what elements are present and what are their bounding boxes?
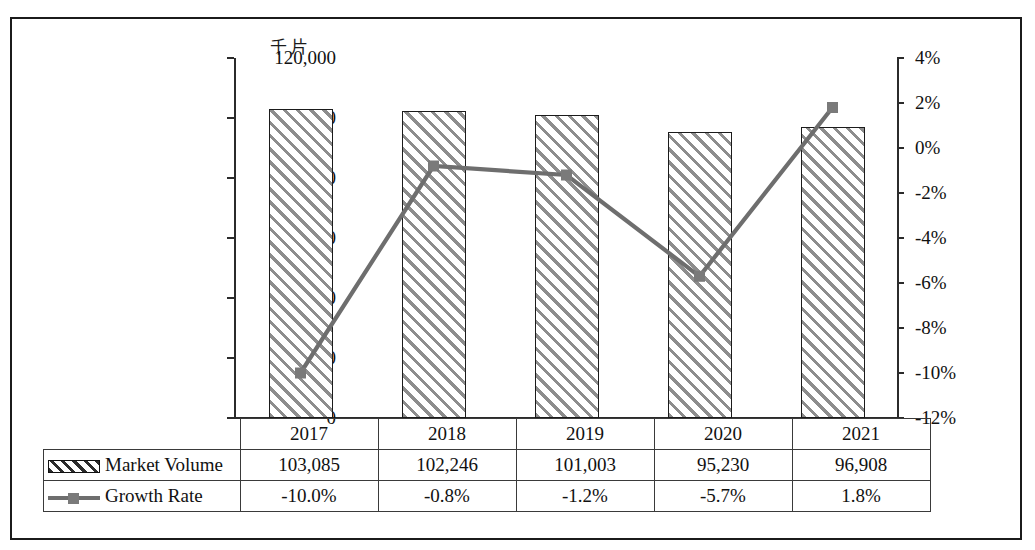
table-cell-2019: -1.2% bbox=[516, 481, 654, 512]
table-cell-2017: 103,085 bbox=[240, 450, 378, 481]
table-row: Market Volume103,085102,246101,00395,230… bbox=[44, 450, 931, 481]
left-axis-tick bbox=[227, 177, 234, 179]
left-axis-tick bbox=[227, 237, 234, 239]
growth-rate-marker-2017 bbox=[295, 368, 306, 379]
right-axis-tick-label: -8% bbox=[915, 318, 947, 337]
table-series-label-growth-rate: Growth Rate bbox=[44, 481, 241, 512]
table-corner-cell bbox=[44, 419, 241, 450]
left-axis-tick bbox=[227, 297, 234, 299]
table-series-label-market-volume: Market Volume bbox=[44, 450, 241, 481]
plot-area: 020,00040,00060,00080,000100,000120,000 … bbox=[234, 58, 899, 418]
line-series-layer bbox=[234, 58, 899, 418]
growth-rate-marker-2020 bbox=[694, 271, 705, 282]
right-axis-tick-labels: -12%-10%-8%-6%-4%-2%0%2%4% bbox=[915, 58, 1035, 418]
right-axis-tick-label: -2% bbox=[915, 183, 947, 202]
table-body: Market Volume103,085102,246101,00395,230… bbox=[44, 450, 931, 512]
right-axis-tick bbox=[897, 102, 904, 104]
table-cell-2020: 95,230 bbox=[654, 450, 792, 481]
table-header-year-2017: 2017 bbox=[240, 419, 378, 450]
left-axis-tick bbox=[227, 57, 234, 59]
legend-bar-swatch-icon bbox=[48, 460, 100, 473]
table-header-year-2021: 2021 bbox=[792, 419, 930, 450]
right-axis-tick bbox=[897, 147, 904, 149]
right-axis-tick-label: -10% bbox=[915, 363, 956, 382]
left-axis-tick bbox=[227, 117, 234, 119]
table-header-year-2018: 2018 bbox=[378, 419, 516, 450]
right-axis-tick bbox=[897, 57, 904, 59]
table-header-year-2019: 2019 bbox=[516, 419, 654, 450]
table-header-year-2020: 2020 bbox=[654, 419, 792, 450]
growth-rate-marker-2019 bbox=[561, 170, 572, 181]
table-cell-2018: -0.8% bbox=[378, 481, 516, 512]
right-axis-tick-label: -6% bbox=[915, 273, 947, 292]
legend-line-swatch-icon bbox=[48, 491, 100, 504]
growth-rate-line bbox=[301, 108, 833, 374]
right-axis-tick bbox=[897, 372, 904, 374]
table-cell-2019: 101,003 bbox=[516, 450, 654, 481]
growth-rate-marker-2018 bbox=[428, 161, 439, 172]
table-row: Growth Rate-10.0%-0.8%-1.2%-5.7%1.8% bbox=[44, 481, 931, 512]
right-axis-tick-label: -4% bbox=[915, 228, 947, 247]
right-axis-tick-label: 2% bbox=[915, 93, 940, 112]
data-table: 20172018201920202021 Market Volume103,08… bbox=[43, 418, 931, 512]
right-axis-tick bbox=[897, 282, 904, 284]
legend-label: Growth Rate bbox=[105, 485, 203, 506]
legend-label: Market Volume bbox=[105, 454, 223, 475]
growth-rate-markers bbox=[295, 102, 838, 379]
right-axis-tick bbox=[897, 237, 904, 239]
right-axis-tick-label: 4% bbox=[915, 48, 940, 67]
table-cell-2021: 1.8% bbox=[792, 481, 930, 512]
table-cell-2021: 96,908 bbox=[792, 450, 930, 481]
table-header-row: 20172018201920202021 bbox=[44, 419, 931, 450]
table-cell-2020: -5.7% bbox=[654, 481, 792, 512]
chart-figure: 千片 020,00040,00060,00080,000100,000120,0… bbox=[0, 0, 1035, 550]
table-cell-2017: -10.0% bbox=[240, 481, 378, 512]
right-axis-tick bbox=[897, 192, 904, 194]
left-axis-tick bbox=[227, 357, 234, 359]
right-axis-tick-label: 0% bbox=[915, 138, 940, 157]
growth-rate-marker-2021 bbox=[827, 102, 838, 113]
table-cell-2018: 102,246 bbox=[378, 450, 516, 481]
right-axis-tick bbox=[897, 327, 904, 329]
